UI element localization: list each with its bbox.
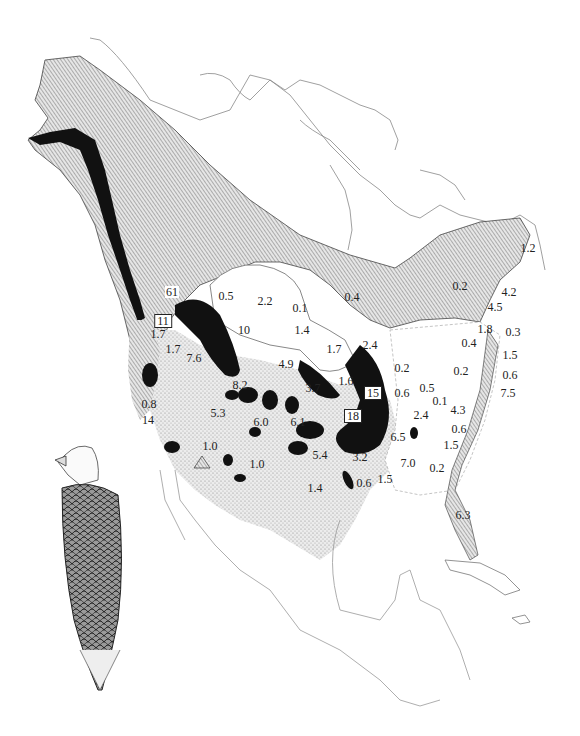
density-label: 3.2: [352, 451, 369, 463]
density-label: 11: [154, 314, 172, 328]
density-label: 3.7: [305, 382, 322, 394]
density-label: 1.7: [165, 343, 182, 355]
density-label: 0.6: [356, 477, 373, 489]
eagle-head: [58, 446, 98, 485]
density-label: 7.0: [400, 457, 417, 469]
density-label: 0.4: [461, 337, 478, 349]
density-label: 0.5: [218, 290, 235, 302]
density-label: 0.3: [505, 326, 522, 338]
density-label: 61: [165, 286, 179, 298]
density-label: 5.4: [312, 449, 329, 461]
density-label: 1.4: [307, 482, 324, 494]
density-label: 5.3: [210, 407, 227, 419]
density-label: 0.6: [451, 423, 468, 435]
density-label: 18: [344, 409, 362, 423]
density-label: 1.5: [377, 473, 394, 485]
density-label: 6.5: [390, 431, 407, 443]
density-label: 7.6: [186, 352, 203, 364]
density-label: 1.0: [249, 458, 266, 470]
density-label: 0.2: [452, 280, 469, 292]
density-label: 1.6: [338, 375, 355, 387]
density-label: 0.1: [432, 395, 449, 407]
density-label: 0.6: [502, 369, 519, 381]
density-label: 15: [364, 386, 382, 400]
density-label: 6.1: [290, 416, 307, 428]
density-label: 1.5: [443, 439, 460, 451]
density-label: 1.2: [520, 242, 537, 254]
density-label: 2.4: [413, 409, 430, 421]
density-label: 0.4: [344, 291, 361, 303]
density-label: 1.7: [326, 343, 343, 355]
density-label: 1.0: [202, 440, 219, 452]
density-label: 4.3: [450, 404, 467, 416]
density-label: 4.9: [278, 358, 295, 370]
density-label: 1.5: [502, 349, 519, 361]
hispaniola: [512, 615, 530, 624]
density-label: 0.5: [419, 382, 436, 394]
density-label: 8.2: [232, 379, 249, 391]
density-label: 2.2: [257, 295, 274, 307]
density-label: 1.4: [294, 324, 311, 336]
bald-eagle-illustration: [55, 446, 122, 690]
density-label: 0.1: [292, 302, 309, 314]
density-label: 6.0: [253, 416, 270, 428]
density-label: 6.3: [455, 509, 472, 521]
density-label: 0.8: [141, 398, 158, 410]
density-label: 4.2: [501, 286, 518, 298]
density-label: 2.4: [362, 339, 379, 351]
eagle-tail: [80, 650, 120, 690]
density-label: 0.2: [453, 365, 470, 377]
density-label: 7.5: [500, 387, 517, 399]
density-label: 0.2: [429, 462, 446, 474]
density-label: 1.8: [477, 323, 494, 335]
density-label: 0.2: [394, 362, 411, 374]
cuba: [445, 560, 520, 595]
density-label: 10: [237, 324, 251, 336]
density-label: 0.6: [394, 387, 411, 399]
density-label: 4.5: [487, 301, 504, 313]
density-label: 1.7: [150, 328, 167, 340]
density-label: 14: [141, 414, 155, 426]
